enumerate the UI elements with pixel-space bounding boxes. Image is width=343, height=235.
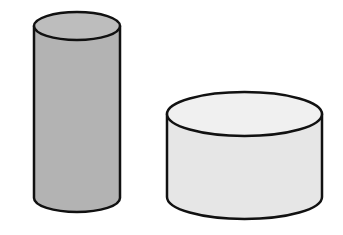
left-cylinder [34, 12, 120, 212]
right-cylinder-top-face [167, 92, 322, 136]
cylinders-figure: A line drawing of two three-dimensional … [0, 0, 343, 235]
left-cylinder-body [34, 26, 120, 212]
figure-svg [0, 0, 343, 235]
left-cylinder-top-face [34, 12, 120, 40]
right-cylinder [167, 92, 322, 219]
